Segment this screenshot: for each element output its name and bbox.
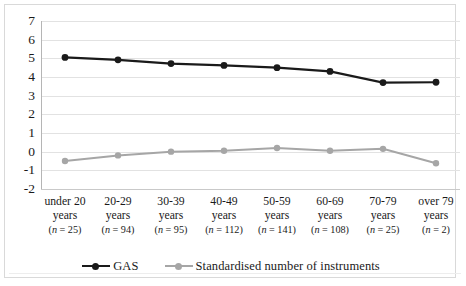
x-tick-unit: years xyxy=(318,209,343,222)
data-point[interactable] xyxy=(62,54,69,61)
y-tick-5: 5 xyxy=(28,52,35,66)
x-axis-line xyxy=(41,189,460,190)
x-tick-unit: years xyxy=(424,209,449,222)
data-point[interactable] xyxy=(433,160,439,166)
x-tick-unit: years xyxy=(265,209,290,222)
y-axis-tick-labels: 76543210-1-2 xyxy=(5,21,38,189)
x-tick-label: under 20years(n = 25) xyxy=(38,195,92,237)
x-tick-range: 70-79 xyxy=(369,195,396,208)
x-tick-count: (n = 112) xyxy=(197,223,251,237)
x-tick-unit: years xyxy=(212,209,237,222)
x-tick-unit: years xyxy=(53,209,78,222)
y-tick-4: 4 xyxy=(28,70,35,84)
x-tick-label: 20-29years(n = 94) xyxy=(91,195,145,237)
legend-item-standardised-instruments[interactable]: Standardised number of instruments xyxy=(165,259,380,274)
data-point[interactable] xyxy=(221,62,228,69)
data-point[interactable] xyxy=(380,146,386,152)
x-tick-label: 60-69years(n = 108) xyxy=(303,195,357,237)
x-tick-label: 40-49years(n = 112) xyxy=(197,195,251,237)
legend-item-gas[interactable]: GAS xyxy=(82,259,138,274)
y-tick--1: -1 xyxy=(24,164,35,178)
legend-label: Standardised number of instruments xyxy=(196,259,380,274)
x-tick-unit: years xyxy=(159,209,184,222)
data-point[interactable] xyxy=(327,148,333,154)
x-tick-label: 70-79years(n = 25) xyxy=(356,195,410,237)
y-tick-7: 7 xyxy=(28,14,35,28)
y-tick-0: 0 xyxy=(28,145,35,159)
data-point[interactable] xyxy=(115,152,121,158)
y-tick-3: 3 xyxy=(28,89,35,103)
x-tick-count: (n = 94) xyxy=(91,223,145,237)
y-tick-1: 1 xyxy=(28,126,35,140)
y-tick-2: 2 xyxy=(28,108,35,122)
x-tick-label: over 79years(n = 2) xyxy=(409,195,463,237)
legend-divider xyxy=(9,273,461,274)
x-tick-label: 50-59years(n = 141) xyxy=(250,195,304,237)
x-tick-count: (n = 95) xyxy=(144,223,198,237)
chart-frame: 76543210-1-2 under 20years(n = 25)20-29y… xyxy=(4,4,456,278)
x-tick-count: (n = 25) xyxy=(356,223,410,237)
x-tick-count: (n = 2) xyxy=(409,223,463,237)
series-layer xyxy=(41,21,460,189)
data-point[interactable] xyxy=(168,148,174,154)
data-point[interactable] xyxy=(221,148,227,154)
data-point[interactable] xyxy=(327,68,334,75)
data-point[interactable] xyxy=(62,158,68,164)
x-tick-unit: years xyxy=(106,209,131,222)
plot-area xyxy=(41,21,460,189)
y-tick-6: 6 xyxy=(28,33,35,47)
x-tick-range: under 20 xyxy=(44,195,85,208)
data-point[interactable] xyxy=(433,79,440,86)
y-tick--2: -2 xyxy=(24,182,35,196)
x-tick-range: 30-39 xyxy=(157,195,184,208)
legend-marker-line-icon xyxy=(82,261,110,271)
x-tick-count: (n = 25) xyxy=(38,223,92,237)
data-point[interactable] xyxy=(380,79,387,86)
legend-label: GAS xyxy=(113,259,138,274)
x-tick-range: over 79 xyxy=(418,195,453,208)
x-tick-range: 40-49 xyxy=(210,195,237,208)
x-tick-range: 20-29 xyxy=(104,195,131,208)
x-tick-range: 50-59 xyxy=(263,195,290,208)
legend-marker-line-icon xyxy=(165,261,193,271)
data-point[interactable] xyxy=(168,60,175,67)
x-tick-unit: years xyxy=(371,209,396,222)
x-tick-count: (n = 141) xyxy=(250,223,304,237)
data-point[interactable] xyxy=(115,56,122,63)
x-tick-range: 60-69 xyxy=(316,195,343,208)
data-point[interactable] xyxy=(274,145,280,151)
x-axis-tick-labels: under 20years(n = 25)20-29years(n = 94)3… xyxy=(41,195,460,251)
data-point[interactable] xyxy=(274,64,281,71)
x-tick-label: 30-39years(n = 95) xyxy=(144,195,198,237)
x-tick-count: (n = 108) xyxy=(303,223,357,237)
